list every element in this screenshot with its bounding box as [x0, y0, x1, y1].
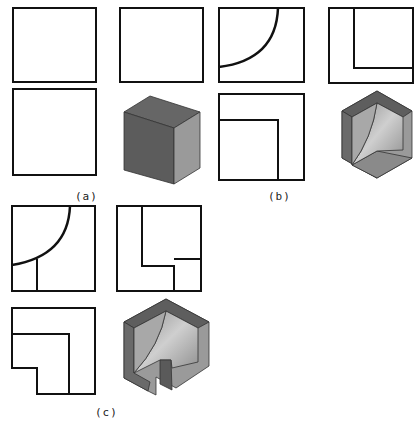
- b-top-notch: [219, 120, 278, 180]
- b-front-view: [219, 8, 304, 82]
- a-side-view: [120, 8, 203, 82]
- isometric-concave-b: [342, 91, 412, 178]
- b-side-notch: [354, 8, 413, 68]
- c-front-arc: [12, 206, 70, 265]
- caption-a: (a): [75, 190, 98, 203]
- isometric-cube-a: [124, 96, 200, 184]
- c-top-view: [12, 308, 95, 394]
- c-side-notch: [142, 206, 201, 291]
- caption-b: (b): [268, 190, 291, 203]
- a-top-view: [13, 89, 96, 175]
- isometric-concave-c: [124, 299, 209, 395]
- b-side-view: [329, 8, 413, 83]
- caption-c: (c): [95, 406, 118, 419]
- c-top-notch: [12, 334, 69, 394]
- a-front-view: [13, 8, 96, 82]
- c-side-view: [117, 206, 201, 291]
- orthographic-projection-diagram: [0, 0, 420, 421]
- b-front-arc: [219, 8, 278, 67]
- b-top-view: [219, 94, 304, 180]
